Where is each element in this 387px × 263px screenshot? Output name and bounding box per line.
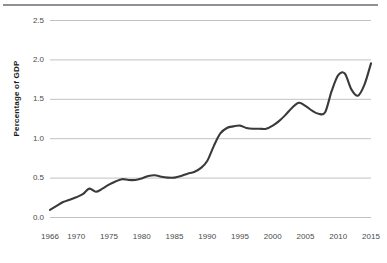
- data-series-line: [50, 63, 371, 210]
- chart-container: Percentage of GDP 0.00.51.01.52.02.5 196…: [0, 0, 387, 263]
- x-axis-tick-label: 2015: [351, 232, 387, 241]
- plot-area: [0, 0, 387, 263]
- gridlines: [50, 21, 371, 218]
